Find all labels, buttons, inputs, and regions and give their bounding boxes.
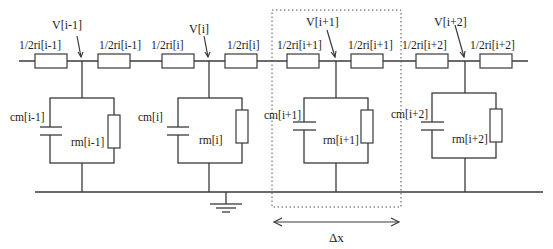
membrane-resistor-label-2: rm[i+1] bbox=[323, 134, 359, 146]
axial-resistor-right-3 bbox=[480, 54, 512, 68]
resistor-label: 1/2ri[i] bbox=[227, 39, 260, 51]
compartment-0 bbox=[40, 61, 120, 192]
voltage-label-0: V[i-1] bbox=[52, 18, 82, 32]
axial-resistor-left-3 bbox=[416, 54, 448, 68]
resistor-label: 1/2ri[i+1] bbox=[348, 39, 393, 51]
cable-circuit-diagram: V[i-1] V[i] V[i+1] V[i+2] 1/2ri[i-1] 1/2… bbox=[0, 0, 553, 249]
voltage-label-3: V[i+2] bbox=[434, 15, 467, 29]
compartment-2 bbox=[293, 61, 373, 192]
compartment-1 bbox=[167, 61, 248, 192]
membrane-resistor-label-1: rm[i] bbox=[199, 134, 223, 146]
resistor-label: 1/2ri[i+1] bbox=[277, 39, 322, 51]
resistor-label: 1/2ri[i+2] bbox=[402, 39, 447, 51]
axial-resistor-right-0 bbox=[98, 54, 130, 68]
resistor-label: 1/2ri[i-1] bbox=[19, 39, 61, 51]
resistor-label: 1/2ri[i-1] bbox=[99, 39, 141, 51]
capacitor-label-2: cm[i+1] bbox=[264, 109, 301, 121]
resistor-label: 1/2ri[i] bbox=[151, 39, 184, 51]
membrane-resistor-0 bbox=[108, 115, 120, 148]
capacitor-label-1: cm[i] bbox=[138, 111, 163, 123]
membrane-resistor-label-0: rm[i-1] bbox=[71, 136, 104, 148]
voltage-label-1: V[i] bbox=[189, 22, 209, 36]
resistor-label: 1/2ri[i+2] bbox=[470, 39, 515, 51]
membrane-resistor-3 bbox=[490, 109, 502, 142]
delta-x-arrow bbox=[274, 218, 399, 226]
axial-resistor-left-0 bbox=[35, 54, 67, 68]
axial-resistor-right-1 bbox=[225, 54, 257, 68]
membrane-resistor-label-3: rm[i+2] bbox=[452, 133, 488, 145]
axial-resistor-right-2 bbox=[351, 54, 383, 68]
capacitor-label-0: cm[i-1] bbox=[10, 111, 44, 123]
delta-x-label: Δx bbox=[329, 230, 344, 245]
membrane-resistor-2 bbox=[361, 110, 373, 143]
compartment-3 bbox=[421, 61, 502, 192]
capacitor-label-3: cm[i+2] bbox=[391, 108, 428, 120]
ground-icon bbox=[210, 192, 242, 212]
axial-resistor-left-1 bbox=[162, 54, 194, 68]
axial-resistor-left-2 bbox=[287, 54, 319, 68]
membrane-resistor-1 bbox=[236, 110, 248, 143]
voltage-label-2: V[i+1] bbox=[306, 15, 339, 29]
